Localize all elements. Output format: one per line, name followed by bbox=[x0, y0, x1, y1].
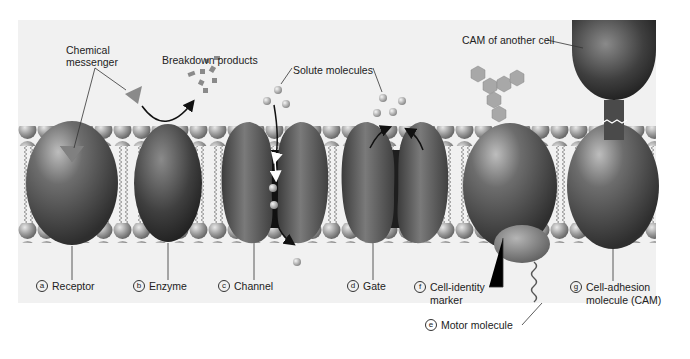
cam-of-another-cell bbox=[572, 20, 656, 100]
letter-e: e bbox=[425, 319, 437, 331]
letter-d: d bbox=[347, 280, 359, 292]
letter-c: c bbox=[218, 280, 230, 292]
letter-b: b bbox=[133, 280, 145, 292]
glycoprotein-chain-icon bbox=[471, 66, 524, 122]
label-cam-of-another-cell: CAM of another cell bbox=[462, 34, 554, 46]
label-chemical-messenger: Chemical messenger bbox=[66, 44, 118, 68]
label-solute-molecules: Solute molecules bbox=[293, 64, 373, 76]
letter-g: g bbox=[570, 281, 582, 293]
enzyme-protein bbox=[134, 124, 202, 242]
solute-molecules-icon bbox=[263, 86, 406, 117]
label-breakdown-products: Breakdown products bbox=[162, 54, 258, 66]
label-enzyme: bEnzyme bbox=[133, 280, 187, 293]
letter-f: f bbox=[414, 281, 426, 293]
label-cell-adhesion-molecule: gCell-adhesion molecule (CAM) bbox=[570, 281, 661, 306]
letter-a: a bbox=[36, 280, 48, 292]
label-cell-identity-marker: fCell-identity marker bbox=[414, 281, 485, 306]
label-channel: cChannel bbox=[218, 280, 273, 293]
label-receptor: aReceptor bbox=[36, 280, 95, 293]
label-motor-molecule: eMotor molecule bbox=[425, 319, 513, 332]
chemical-messenger-icon bbox=[125, 86, 142, 104]
membrane-protein-diagram: Chemical messenger Breakdown products So… bbox=[0, 0, 690, 359]
cell-identity-protein bbox=[463, 123, 557, 302]
label-gate: dGate bbox=[347, 280, 386, 293]
receptor-protein bbox=[26, 121, 118, 245]
